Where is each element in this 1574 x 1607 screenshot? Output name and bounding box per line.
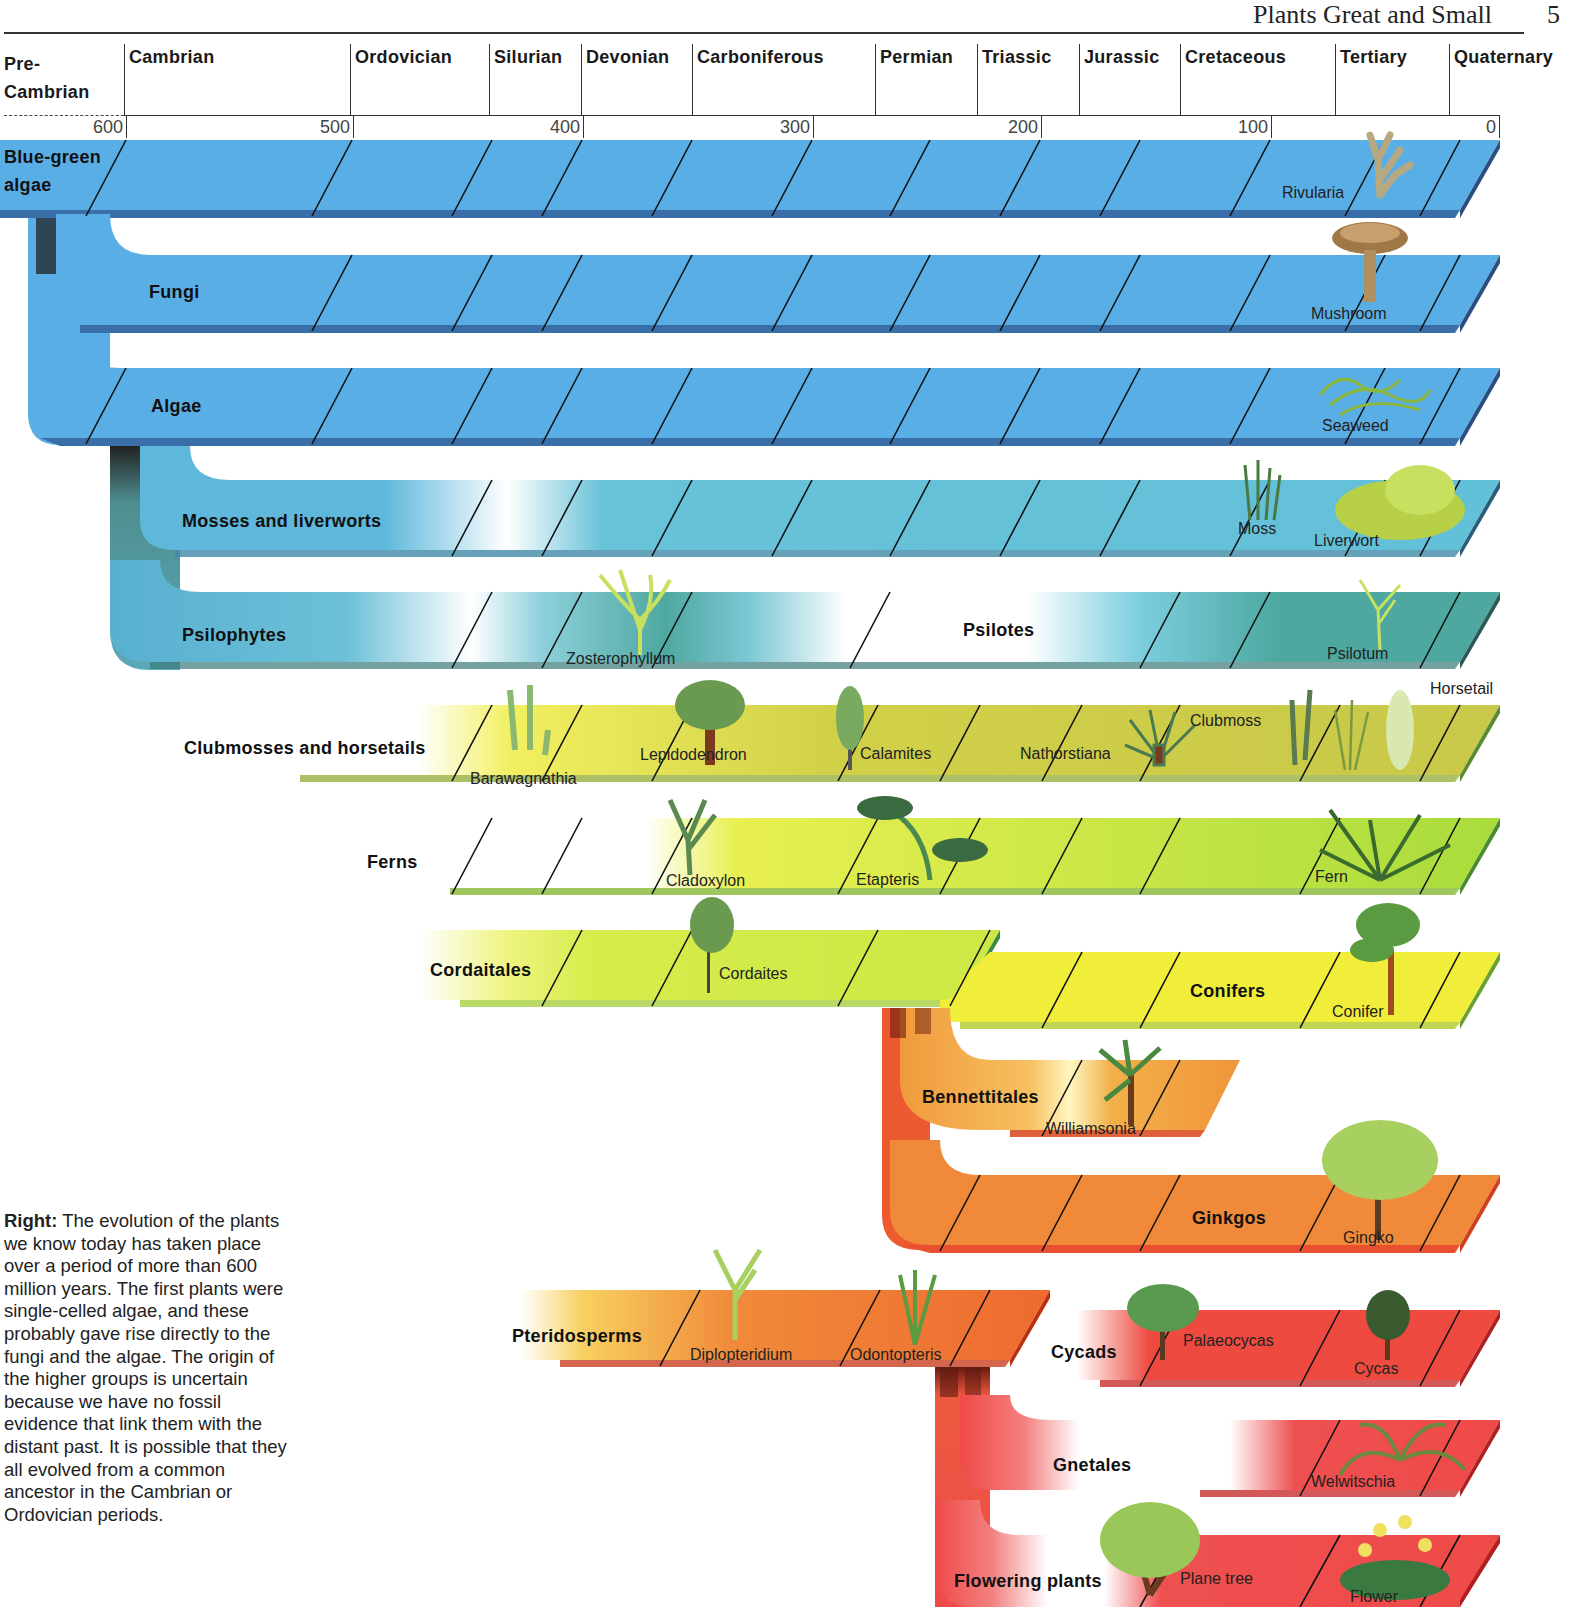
species-horsetail: Horsetail <box>1430 680 1493 698</box>
group-label-conifers: Conifers <box>1190 981 1265 1002</box>
species-nathorstiana: Nathorstiana <box>1020 745 1111 763</box>
species-psilotum: Psilotum <box>1327 645 1388 663</box>
group-label-ferns: Ferns <box>367 852 418 873</box>
group-label-cycads: Cycads <box>1051 1342 1117 1363</box>
species-williamsonia: Williamsonia <box>1046 1120 1136 1138</box>
group-label-pteridosperms: Pteridosperms <box>512 1326 642 1347</box>
species-calamites: Calamites <box>860 745 931 763</box>
species-cladoxylon: Cladoxylon <box>666 872 745 890</box>
species-zosterophyllum: Zosterophyllum <box>566 650 675 668</box>
species-cordaites: Cordaites <box>719 965 787 983</box>
group-label-cordaitales: Cordaitales <box>430 960 531 981</box>
species-liverwort: Liverwort <box>1314 532 1379 550</box>
group-label-blue-green-algae: Blue-green algae <box>4 143 101 199</box>
species-etapteris: Etapteris <box>856 871 919 889</box>
species-welwitschia: Welwitschia <box>1311 1473 1395 1491</box>
caption-lead: Right: <box>4 1210 57 1231</box>
species-gingko: Gingko <box>1343 1229 1394 1247</box>
species-mushroom: Mushroom <box>1311 305 1387 323</box>
species-flower: Flower <box>1350 1588 1398 1606</box>
species-diplopteridium: Diplopteridium <box>690 1346 792 1364</box>
label-line2: algae <box>4 171 101 199</box>
species-rivularia: Rivularia <box>1282 184 1344 202</box>
group-label-algae: Algae <box>151 396 202 417</box>
group-label-bennettitales: Bennettitales <box>922 1087 1039 1108</box>
species-seaweed: Seaweed <box>1322 417 1389 435</box>
species-conifer: Conifer <box>1332 1003 1384 1021</box>
species-odontopteris: Odontopteris <box>850 1346 942 1364</box>
group-label-flowering-plants: Flowering plants <box>954 1571 1102 1592</box>
group-label-clubmosses-and-horsetails: Clubmosses and horsetails <box>184 738 426 759</box>
liverwort-illustration <box>1335 465 1465 540</box>
group-label-psilotes: Psilotes <box>963 620 1034 641</box>
figure-caption: Right: The evolution of the plants we kn… <box>4 1210 294 1526</box>
group-label-fungi: Fungi <box>149 282 199 303</box>
group-label-mosses-and-liverworts: Mosses and liverworts <box>182 511 381 532</box>
group-label-ginkgos: Ginkgos <box>1192 1208 1266 1229</box>
species-palaeocycas: Palaeocycas <box>1183 1332 1274 1350</box>
species-fern: Fern <box>1315 868 1348 886</box>
group-label-gnetales: Gnetales <box>1053 1455 1131 1476</box>
species-clubmoss: Clubmoss <box>1190 712 1261 730</box>
species-lepidodendron: Lepidodendron <box>640 746 747 764</box>
group-label-psilophytes: Psilophytes <box>182 625 286 646</box>
species-barawagnathia: Barawagnathia <box>470 770 577 788</box>
horsetail-illustration <box>1386 690 1414 770</box>
label-line1: Blue-green <box>4 143 101 171</box>
caption-text: The evolution of the plants we know toda… <box>4 1210 287 1525</box>
species-cycas-label: Cycas <box>1354 1360 1398 1378</box>
species-plane-tree: Plane tree <box>1180 1570 1253 1588</box>
species-moss: Moss <box>1238 520 1276 538</box>
